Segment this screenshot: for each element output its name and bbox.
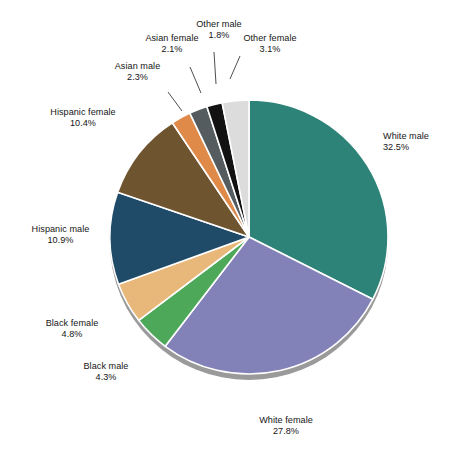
pie-label-asian-male-name: Asian male bbox=[99, 61, 176, 72]
pie-label-asian-female-value: 2.1% bbox=[128, 44, 216, 55]
pie-label-black-female-name: Black female bbox=[27, 318, 117, 329]
pie-label-white-male-value: 32.5% bbox=[383, 142, 429, 153]
pie-label-other-male-name: Other male bbox=[182, 19, 256, 30]
pie-label-hispanic-male: Hispanic male 10.9% bbox=[14, 224, 107, 247]
pie-label-hispanic-male-name: Hispanic male bbox=[14, 224, 107, 235]
leader-line-2 bbox=[214, 52, 216, 84]
pie-label-asian-male-value: 2.3% bbox=[99, 72, 176, 83]
pie-label-hispanic-female-value: 10.4% bbox=[31, 118, 135, 129]
leader-line-3 bbox=[230, 56, 240, 79]
pie-label-white-male-name: White male bbox=[383, 131, 429, 142]
pie-label-white-female-value: 27.8% bbox=[231, 426, 341, 437]
pie-label-other-female-value: 3.1% bbox=[227, 44, 313, 55]
pie-label-asian-male: Asian male 2.3% bbox=[99, 61, 176, 84]
pie-label-black-male-name: Black male bbox=[64, 361, 148, 372]
pie-chart: White male 32.5% White female 27.8% Blac… bbox=[0, 0, 458, 457]
pie-label-other-female: Other female 3.1% bbox=[227, 33, 313, 56]
pie-label-black-female-value: 4.8% bbox=[27, 329, 117, 340]
leader-line-0 bbox=[168, 92, 182, 111]
pie-label-black-female: Black female 4.8% bbox=[27, 318, 117, 341]
pie-label-white-female-name: White female bbox=[231, 415, 341, 426]
pie-label-other-female-name: Other female bbox=[227, 33, 313, 44]
pie-label-hispanic-female: Hispanic female 10.4% bbox=[31, 107, 135, 130]
pie-label-hispanic-female-name: Hispanic female bbox=[31, 107, 135, 118]
pie-label-white-female: White female 27.8% bbox=[231, 415, 341, 438]
pie-label-hispanic-male-value: 10.9% bbox=[14, 235, 107, 246]
leader-line-1 bbox=[190, 67, 201, 93]
pie-label-white-male: White male 32.5% bbox=[383, 131, 429, 154]
pie-slices bbox=[110, 100, 388, 374]
pie-label-black-male-value: 4.3% bbox=[64, 372, 148, 383]
pie-label-black-male: Black male 4.3% bbox=[64, 361, 148, 384]
